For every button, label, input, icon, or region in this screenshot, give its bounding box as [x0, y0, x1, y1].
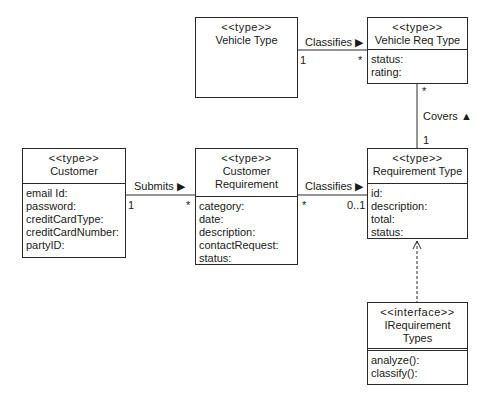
attribute: email Id: — [26, 187, 125, 200]
submits-target-mult: * — [186, 199, 190, 211]
class-header: <<type>> Vehicle Type — [196, 18, 297, 47]
class-header: <<type>> Customer Requirement — [196, 149, 297, 196]
class-name-line1: Customer — [196, 165, 297, 178]
operation: analyze(): — [371, 354, 467, 367]
submits-label: Submits ▶ — [134, 180, 185, 192]
stereotype: <<type>> — [196, 21, 297, 34]
attribute-list: id: description: total: status: — [368, 183, 467, 239]
stereotype: <<type>> — [23, 152, 125, 165]
class-name-line1: IRequirement — [368, 319, 467, 332]
attribute: creditCardType: — [26, 213, 125, 226]
stereotype: <<type>> — [196, 152, 297, 165]
class-header: <<type>> Requirement Type — [368, 149, 467, 183]
operation: classify(): — [371, 367, 467, 380]
class-name: Vehicle Type — [196, 34, 297, 47]
attribute: status: — [371, 53, 467, 66]
attribute: total: — [371, 213, 467, 226]
class-name: Requirement Type — [368, 165, 467, 178]
attribute: status: — [199, 252, 297, 265]
submits-source-mult: 1 — [128, 199, 134, 211]
class-name: Customer — [23, 165, 125, 178]
attribute: description: — [371, 200, 467, 213]
vehicle-classifies-source-mult: 1 — [300, 54, 306, 66]
class-requirement-type[interactable]: <<type>> Requirement Type id: descriptio… — [367, 148, 468, 239]
attribute: status: — [371, 226, 467, 239]
operation-list: analyze(): classify(): — [368, 348, 467, 380]
req-classifies-label: Classifies ▶ — [305, 180, 363, 192]
attribute: description: — [199, 226, 297, 239]
class-customer[interactable]: <<type>> Customer email Id: password: cr… — [22, 148, 126, 258]
attribute: category: — [199, 200, 297, 213]
class-name-line2: Types — [368, 332, 467, 345]
class-vehicle-req-type[interactable]: <<type>> Vehicle Req Type status: rating… — [367, 17, 468, 84]
class-customer-requirement[interactable]: <<type>> Customer Requirement category: … — [195, 148, 298, 265]
stereotype: <<type>> — [368, 21, 467, 34]
attribute: contactRequest: — [199, 239, 297, 252]
interface-irequirement-types[interactable]: <<interface>> IRequirement Types analyze… — [367, 302, 468, 385]
attribute: rating: — [371, 66, 467, 79]
covers-target-mult: 1 — [423, 134, 429, 146]
attribute: date: — [199, 213, 297, 226]
vehicle-classifies-label: Classifies ▶ — [305, 36, 363, 48]
class-name: Vehicle Req Type — [368, 34, 467, 47]
attribute: password: — [26, 200, 125, 213]
attribute-list: category: date: description: contactRequ… — [196, 196, 297, 265]
attribute: creditCardNumber: — [26, 226, 125, 239]
class-vehicle-type[interactable]: <<type>> Vehicle Type — [195, 17, 298, 98]
class-name-line2: Requirement — [196, 178, 297, 191]
class-header: <<interface>> IRequirement Types — [368, 303, 467, 348]
class-header: <<type>> Customer — [23, 149, 125, 183]
covers-label: Covers ▲ — [423, 110, 472, 122]
req-classifies-source-mult: * — [302, 199, 306, 211]
attribute-list: email Id: password: creditCardType: cred… — [23, 183, 125, 252]
vehicle-classifies-target-mult: * — [358, 54, 362, 66]
attribute: partyID: — [26, 239, 125, 252]
req-classifies-target-mult: 0..1 — [347, 199, 365, 211]
stereotype: <<interface>> — [368, 306, 467, 319]
attribute-list: status: rating: — [368, 49, 467, 79]
stereotype: <<type>> — [368, 152, 467, 165]
covers-source-mult: * — [422, 85, 426, 97]
attribute: id: — [371, 187, 467, 200]
class-header: <<type>> Vehicle Req Type — [368, 18, 467, 49]
